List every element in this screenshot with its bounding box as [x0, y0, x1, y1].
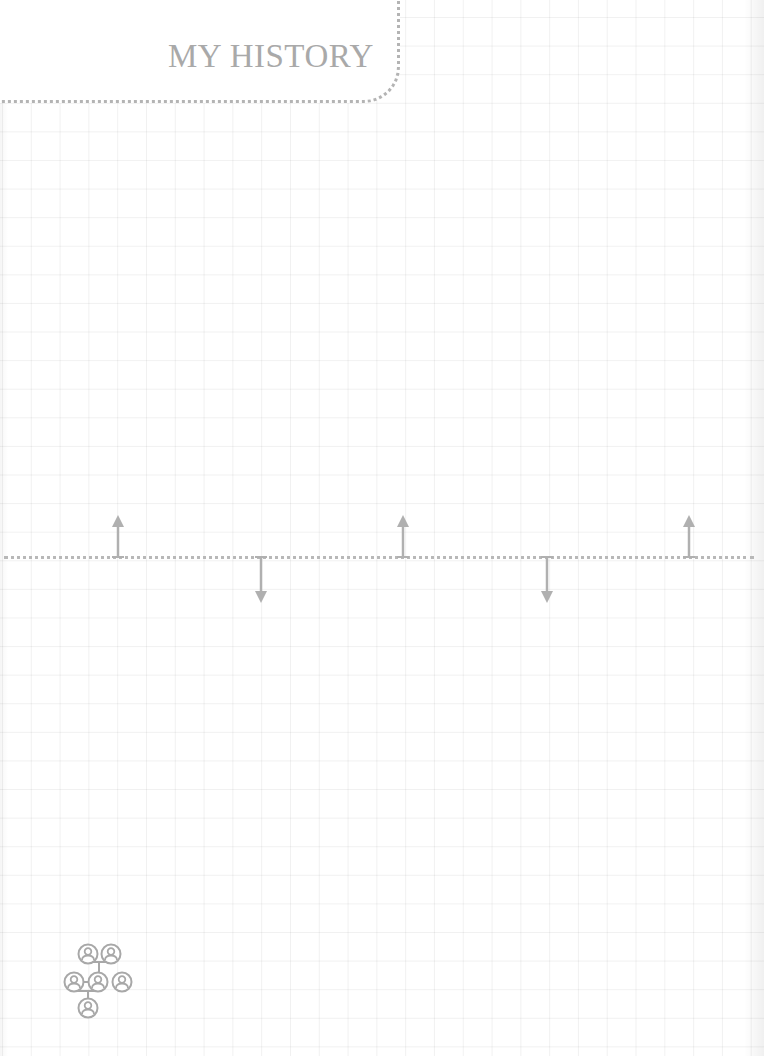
arrow-up-icon: [108, 513, 128, 561]
timeline-event-5[interactable]: [679, 513, 699, 561]
timeline-event-2[interactable]: [251, 555, 271, 605]
timeline-event-3[interactable]: [393, 513, 413, 561]
arrow-up-icon: [393, 513, 413, 561]
page-edge-left: [0, 0, 8, 1056]
arrow-down-icon: [537, 555, 557, 605]
page-edge-right: [744, 0, 764, 1056]
timeline-event-4[interactable]: [537, 555, 557, 605]
timeline-event-1[interactable]: [108, 513, 128, 561]
family-tree-icon: [62, 942, 138, 1026]
page-title: MY HISTORY: [168, 38, 374, 75]
arrow-down-icon: [251, 555, 271, 605]
arrow-up-icon: [679, 513, 699, 561]
